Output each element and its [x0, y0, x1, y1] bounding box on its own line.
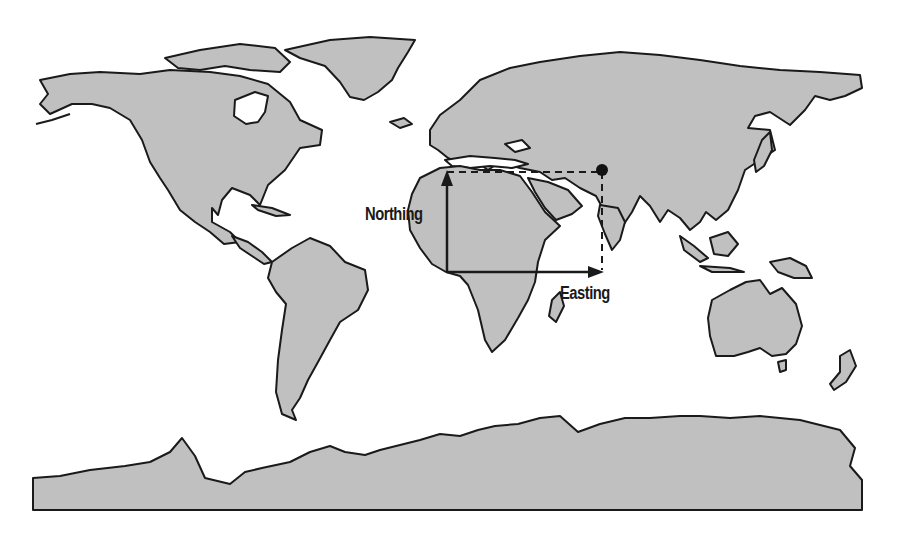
northing-label: Northing	[365, 204, 423, 225]
borneo	[710, 232, 738, 256]
central-america	[232, 236, 272, 264]
java	[700, 266, 744, 272]
iceland	[390, 118, 412, 128]
cuba	[252, 205, 290, 216]
world-map	[0, 0, 897, 539]
new-zealand	[830, 350, 856, 390]
target-point-marker	[596, 164, 608, 176]
arctic-islands	[165, 44, 290, 72]
sumatra	[680, 236, 708, 262]
tasmania	[778, 360, 786, 372]
north-america	[40, 70, 322, 244]
south-america	[268, 238, 368, 420]
new-guinea	[770, 258, 812, 278]
clipped-caption-bottom	[0, 525, 897, 539]
australia	[708, 280, 802, 356]
aleutians	[36, 114, 70, 124]
greenland	[285, 37, 415, 100]
figure: Northing Easting	[0, 0, 897, 539]
easting-label: Easting	[560, 283, 610, 304]
antarctica	[33, 416, 862, 510]
